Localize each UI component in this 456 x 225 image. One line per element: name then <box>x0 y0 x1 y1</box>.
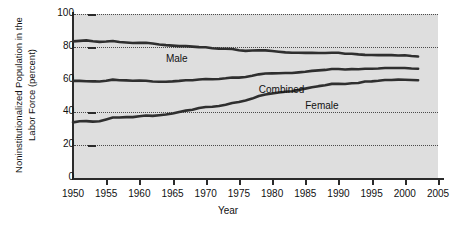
chart-figure: Noninstitutionalized Population in the L… <box>0 0 456 225</box>
series-label-combined: Combined <box>259 84 305 95</box>
line-male <box>73 40 418 56</box>
line-female <box>73 80 418 123</box>
series-label-female: Female <box>305 100 338 111</box>
series-lines <box>0 0 456 225</box>
series-label-male: Male <box>166 53 188 64</box>
x-axis-title: Year <box>0 205 456 216</box>
line-combined <box>73 68 418 82</box>
